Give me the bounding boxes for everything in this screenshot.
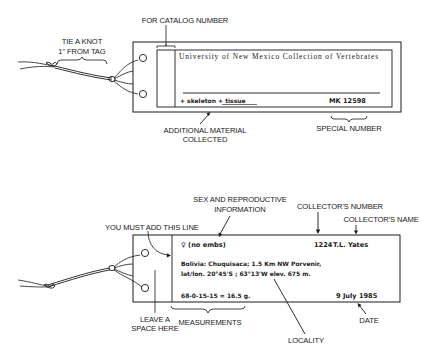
bottom-tag-hole-lower: [141, 284, 148, 291]
top-tag-group: TIE A KNOT 1" FROM TAG FOR CATALOG NUMBE…: [18, 16, 401, 144]
collector-name-arrowhead: [354, 231, 358, 235]
leave-space-label-line2: SPACE HERE: [131, 324, 178, 333]
additional-material-arrow: [200, 114, 209, 124]
collector-name-handwriting: T.L. Yates: [333, 241, 368, 249]
additional-material-arrowhead: [206, 112, 210, 116]
measurements-brace: [171, 306, 245, 313]
special-number-label: SPECIAL NUMBER: [316, 124, 382, 133]
catalog-number-label: FOR CATALOG NUMBER: [142, 16, 229, 25]
top-tag-hole-lower: [139, 90, 146, 97]
add-line-arrowhead: [167, 253, 171, 257]
bottom-tag-string: [18, 255, 142, 288]
locality-handwriting-line2: lat/lon. 20°45'S ; 63°13'W elev. 675 m.: [181, 270, 311, 277]
collector-number-label: COLLECTOR'S NUMBER: [297, 202, 384, 211]
top-tag-string: [18, 60, 138, 94]
date-arrow: [359, 305, 366, 314]
locality-label: LOCALITY: [288, 336, 324, 345]
bottom-tag-hole-upper: [141, 249, 148, 256]
leave-space-label-line1: LEAVE A: [140, 315, 171, 324]
collector-name-label: COLLECTOR'S NAME: [343, 215, 418, 224]
collector-number-handwriting: 1224: [314, 241, 333, 249]
special-number-brace: [331, 116, 367, 122]
bottom-tag-group: YOU MUST ADD THIS LINE LEAVE A SPACE HER…: [18, 195, 419, 345]
tie-knot-brace: [57, 57, 107, 64]
catalog-number-brace: [157, 44, 175, 48]
date-label: DATE: [359, 316, 378, 325]
top-tag-hole-upper: [139, 54, 146, 61]
locality-pointer: [274, 279, 305, 334]
locality-handwriting-line1: Bolivia: Chuquisaca; 1.5 Km NW Porvenir,: [181, 260, 321, 268]
add-line-label: YOU MUST ADD THIS LINE: [105, 223, 199, 232]
measurements-label: MEASUREMENTS: [179, 318, 242, 327]
sex-label-line1: SEX AND REPRODUCTIVE: [193, 195, 286, 204]
date-handwriting: 9 July 1985: [336, 292, 378, 300]
sex-handwriting: ♀ (no embs): [181, 241, 226, 249]
additional-material-handwriting: + skeleton + tissue: [180, 97, 246, 104]
sex-arrow: [220, 216, 230, 234]
additional-material-label-line1: ADDITIONAL MATERIAL: [164, 126, 247, 135]
measurements-handwriting: 68-0-15-15 = 16.5 g.: [181, 292, 250, 300]
collector-number-arrowhead: [316, 230, 320, 235]
tie-knot-label-line1: TIE A KNOT: [62, 37, 103, 46]
tie-knot-label-line2: 1" FROM TAG: [58, 47, 105, 56]
string-end-knot: [46, 62, 57, 66]
sex-label-line2: INFORMATION: [214, 205, 266, 214]
specimen-tag-diagram: TIE A KNOT 1" FROM TAG FOR CATALOG NUMBE…: [0, 0, 443, 360]
special-number-handwriting: MK 12598: [329, 97, 366, 105]
additional-material-label-line2: COLLECTED: [183, 135, 228, 144]
printed-institution-title: University of New Mexico Collection of V…: [179, 52, 379, 61]
